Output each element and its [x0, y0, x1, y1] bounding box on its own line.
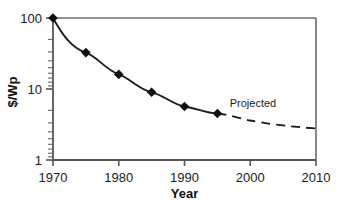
y-tick-label-10: 10	[28, 82, 42, 97]
x-tick-label-1970: 1970	[39, 170, 68, 185]
x-tick-label-1990: 1990	[170, 170, 199, 185]
data-point-1975	[81, 48, 91, 58]
data-point-markers	[48, 13, 222, 118]
projected-annotation-label: Projected	[230, 97, 276, 109]
data-point-1980	[114, 70, 124, 80]
data-point-1995	[213, 109, 223, 119]
x-tick-label-2000: 2000	[236, 170, 265, 185]
projected-line-series	[217, 114, 316, 129]
y-axis-title: $/Wp	[5, 76, 20, 107]
y-tick-label-100: 100	[20, 11, 42, 26]
log-line-chart: 100 10 1 1970 1980 1990 2000 2010 Year $…	[0, 0, 346, 206]
historical-line-series	[53, 18, 217, 114]
x-tick-label-2010: 2010	[302, 170, 331, 185]
x-axis-title: Year	[171, 186, 198, 201]
data-point-1990	[180, 102, 190, 112]
plot-frame	[53, 18, 316, 160]
data-point-1970	[48, 13, 58, 23]
data-point-1985	[147, 88, 157, 98]
chart-container: 100 10 1 1970 1980 1990 2000 2010 Year $…	[0, 0, 346, 206]
x-tick-label-1980: 1980	[104, 170, 133, 185]
y-tick-label-1: 1	[35, 153, 42, 168]
